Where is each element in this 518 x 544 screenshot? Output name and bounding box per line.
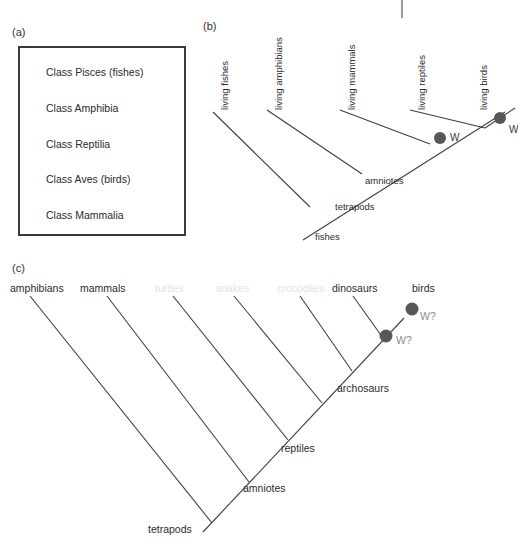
node-label-amniotes-c: amniotes — [243, 482, 286, 494]
branch-living-mammals — [340, 110, 430, 144]
node-label-archosaurs-c: archosaurs — [337, 382, 389, 394]
tip-label-birds: birds — [412, 282, 435, 294]
tip-label-living-mammals: living mammals — [346, 45, 357, 110]
node-label-amniotes: amniotes — [365, 175, 404, 186]
tip-label-crocodiles: crocodiles — [277, 282, 324, 294]
branch-living-amphibians — [267, 110, 362, 174]
node-label-fishes: fishes — [315, 231, 340, 242]
w-marker-dot-archosaurs — [380, 330, 393, 343]
tip-label-turtles: turtles — [155, 282, 184, 294]
tip-label-living-birds: living birds — [478, 65, 489, 110]
branch-mammals — [107, 296, 249, 482]
w-marker-dot-birds-c — [406, 303, 419, 316]
node-label-tetrapods-c: tetrapods — [148, 523, 192, 535]
tip-label-amphibians: amphibians — [10, 282, 64, 294]
class-item-mammalia: Class Mammalia — [46, 209, 124, 221]
panel-b-tree-svg — [195, 0, 450, 258]
panel-c-tree-svg — [0, 258, 450, 544]
branch-living-fishes — [213, 112, 310, 207]
class-item-reptilia: Class Reptilia — [46, 138, 110, 150]
panel-b-traditional-phylogeny: (b) living fishes living amphibians livi… — [195, 0, 450, 258]
tip-label-living-amphibians: living amphibians — [273, 37, 284, 110]
panel-a-letter: (a) — [12, 26, 25, 38]
branch-snakes — [234, 296, 322, 403]
panel-a-classification: (a) Class Pisces (fishes) Class Amphibia… — [0, 0, 200, 255]
branch-turtles — [173, 296, 288, 440]
branch-living-reptiles — [410, 110, 485, 128]
branch-spine — [303, 112, 505, 240]
tip-label-living-reptiles: living reptiles — [416, 55, 427, 110]
w-marker-dot-birds — [494, 112, 506, 124]
node-label-reptiles-c: reptiles — [281, 442, 315, 454]
w-marker-dot-mammals — [434, 132, 446, 144]
branch-amphibians — [30, 296, 212, 523]
w-marker-label-mammals: W — [450, 132, 459, 143]
branch-dinosaurs — [353, 296, 383, 338]
w-marker-label-birds: W — [509, 124, 518, 135]
branch-spine-c — [203, 318, 404, 532]
tip-label-dinosaurs: dinosaurs — [332, 282, 378, 294]
panel-c-cladistic-phylogeny: (c) amphibians mammals turtles snakes cr… — [0, 258, 450, 544]
branch-crocodiles — [300, 296, 352, 371]
tip-label-snakes: snakes — [216, 282, 249, 294]
class-item-aves: Class Aves (birds) — [46, 173, 130, 185]
w-marker-label-archosaurs: W? — [396, 334, 412, 346]
tip-label-mammals: mammals — [80, 282, 126, 294]
node-label-tetrapods: tetrapods — [335, 201, 375, 212]
class-item-amphibia: Class Amphibia — [46, 102, 118, 114]
class-item-pisces: Class Pisces (fishes) — [46, 66, 143, 78]
tip-label-living-fishes: living fishes — [219, 61, 230, 110]
class-list-box: Class Pisces (fishes) Class Amphibia Cla… — [18, 46, 186, 236]
w-marker-label-birds-c: W? — [420, 310, 436, 322]
